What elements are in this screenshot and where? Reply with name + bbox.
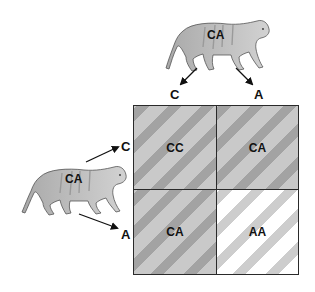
- cell-genotype: CA: [166, 225, 183, 239]
- cell-genotype: CC: [166, 141, 183, 155]
- arrow-left-to-a: [79, 214, 117, 228]
- arrow-left-to-c: [86, 147, 118, 162]
- punnett-square: CC CA CA AA: [133, 105, 299, 275]
- cell-genotype: CA: [249, 141, 266, 155]
- left-allele-c: C: [121, 140, 130, 153]
- top-parent-genotype: CA: [207, 29, 224, 41]
- left-allele-a: A: [121, 228, 130, 241]
- cell-genotype: AA: [249, 225, 266, 239]
- cell-ca-top-right: CA: [217, 106, 298, 190]
- top-allele-c: C: [170, 88, 179, 101]
- top-allele-a: A: [254, 88, 263, 101]
- cell-aa: AA: [217, 190, 298, 274]
- left-parent-genotype: CA: [65, 173, 82, 185]
- arrow-top-to-c: [181, 68, 197, 84]
- arrow-top-to-a: [236, 68, 252, 84]
- cell-ca-bottom-left: CA: [134, 190, 217, 274]
- cell-cc: CC: [134, 106, 217, 190]
